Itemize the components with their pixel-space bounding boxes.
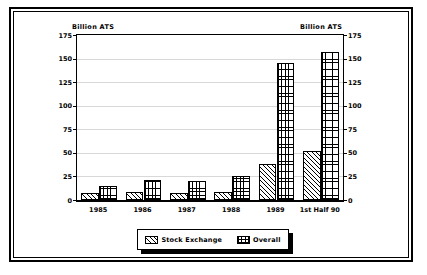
y-axis-tick-right <box>343 200 347 201</box>
x-axis-label-1st-half-90: 1st Half 90 <box>298 206 342 214</box>
bar-overall-1st-half-90 <box>321 52 339 200</box>
legend-item-stock-exchange[interactable]: Stock Exchange <box>145 236 222 244</box>
y-axis-tick-left <box>73 82 77 83</box>
legend-label-overall: Overall <box>253 236 281 244</box>
gridline <box>77 59 343 60</box>
gridline <box>77 82 343 83</box>
y-axis-tick-left <box>73 129 77 130</box>
y-axis-label-left-25: 25 <box>50 173 72 181</box>
legend-item-overall[interactable]: Overall <box>237 236 281 244</box>
y-axis-tick-right <box>343 59 347 60</box>
bar-stock-exchange-1987 <box>170 193 188 200</box>
gridline <box>77 106 343 107</box>
y-axis-tick-left <box>73 200 77 201</box>
bar-stock-exchange-1988 <box>214 192 232 200</box>
x-axis-label-1985: 1985 <box>76 206 120 214</box>
bar-stock-exchange-1st-half-90 <box>303 151 321 200</box>
y-axis-label-right-125: 125 <box>348 79 370 87</box>
plot-bottom-axis <box>76 200 344 202</box>
bar-chart: Billion ATS Billion ATS Stock Exchange O… <box>0 0 427 275</box>
x-axis-label-1989: 1989 <box>253 206 297 214</box>
y-axis-tick-left <box>73 59 77 60</box>
x-axis-label-1988: 1988 <box>209 206 253 214</box>
bar-overall-1989 <box>277 63 295 200</box>
legend-label-stock-exchange: Stock Exchange <box>161 236 222 244</box>
y-axis-label-left-125: 125 <box>50 79 72 87</box>
plot-area <box>76 35 344 200</box>
y-axis-label-left-175: 175 <box>50 32 72 40</box>
y-axis-label-right-75: 75 <box>348 126 370 134</box>
grid-hatch-swatch-icon <box>237 236 250 244</box>
y-axis-tick-right <box>343 176 347 177</box>
y-axis-tick-left <box>73 106 77 107</box>
y-axis-label-right-100: 100 <box>348 102 370 110</box>
y-axis-label-left-100: 100 <box>50 102 72 110</box>
y-axis-tick-left <box>73 153 77 154</box>
y-axis-tick-left <box>73 35 77 36</box>
bar-stock-exchange-1986 <box>126 192 144 200</box>
bar-overall-1985 <box>99 186 117 200</box>
y-axis-label-left-150: 150 <box>50 55 72 63</box>
y-axis-tick-right <box>343 82 347 83</box>
gridline <box>77 129 343 130</box>
y-axis-label-right-150: 150 <box>348 55 370 63</box>
y-axis-label-right-175: 175 <box>348 32 370 40</box>
bar-overall-1987 <box>188 181 206 200</box>
bar-overall-1988 <box>232 176 250 200</box>
y-axis-label-right-25: 25 <box>348 173 370 181</box>
bar-overall-1986 <box>144 180 162 200</box>
y-axis-tick-right <box>343 153 347 154</box>
chart-legend[interactable]: Stock Exchange Overall <box>137 229 289 250</box>
y-axis-label-left-0: 0 <box>50 197 72 205</box>
bar-stock-exchange-1989 <box>259 164 277 200</box>
y-axis-label-left-50: 50 <box>50 149 72 157</box>
y-axis-tick-right <box>343 35 347 36</box>
y-axis-tick-left <box>73 176 77 177</box>
x-axis-label-1986: 1986 <box>120 206 164 214</box>
diagonal-hatch-swatch-icon <box>145 236 158 244</box>
bar-stock-exchange-1985 <box>81 193 99 200</box>
y-axis-right-title: Billion ATS <box>300 23 342 31</box>
y-axis-tick-right <box>343 129 347 130</box>
plot-top-border <box>76 34 344 35</box>
y-axis-label-left-75: 75 <box>50 126 72 134</box>
y-axis-tick-right <box>343 106 347 107</box>
y-axis-label-right-0: 0 <box>348 197 370 205</box>
y-axis-label-right-50: 50 <box>348 149 370 157</box>
y-axis-left-title: Billion ATS <box>72 23 114 31</box>
x-axis-label-1987: 1987 <box>165 206 209 214</box>
